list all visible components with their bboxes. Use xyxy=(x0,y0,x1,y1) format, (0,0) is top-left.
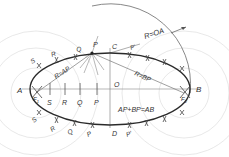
ellipse-construction-diagram: A B C D O F1 F2 S R Q P S R Q P P' S R Q… xyxy=(0,0,229,157)
label-q-upper: Q xyxy=(75,45,82,54)
label-p-prime-lower: P' xyxy=(125,129,133,138)
label-f2: F2 xyxy=(181,96,188,104)
label-r-eq-bp: R=BP xyxy=(134,70,153,84)
label-sum-rule: AP+BP=AB xyxy=(117,106,155,113)
label-a: A xyxy=(16,86,22,95)
label-c: C xyxy=(112,43,118,50)
label-r-upper: R xyxy=(50,50,57,58)
label-o: O xyxy=(114,81,120,88)
point-p-dot xyxy=(90,51,93,54)
label-q-axis: Q xyxy=(77,99,83,107)
label-r-axis: R xyxy=(62,99,67,106)
focus-marks xyxy=(32,86,190,98)
labels: A B C D O F1 F2 S R Q P S R Q P P' S R Q… xyxy=(16,26,202,138)
label-p-prime-upper: P' xyxy=(129,43,137,51)
label-d: D xyxy=(112,130,117,137)
label-f1: F1 xyxy=(33,96,39,104)
label-p-lower: P xyxy=(85,129,92,137)
label-p-upper: P xyxy=(93,41,98,48)
label-b: B xyxy=(196,85,202,94)
label-p-axis: P xyxy=(94,99,99,106)
label-s-lower: S xyxy=(30,115,38,124)
label-r-lower: R xyxy=(49,124,57,133)
label-r-eq-ap: R=AP xyxy=(53,64,72,80)
diagram-svg: A B C D O F1 F2 S R Q P S R Q P P' S R Q… xyxy=(0,0,229,157)
label-q-lower: Q xyxy=(66,127,74,136)
label-s-axis: S xyxy=(47,99,52,106)
label-s-upper: S xyxy=(29,56,37,65)
